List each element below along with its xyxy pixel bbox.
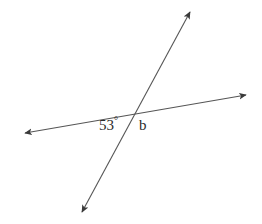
geometry-figure-canvas: 53° b (0, 0, 262, 224)
angle-label-53: 53° (99, 116, 118, 133)
angle-label-b: b (139, 118, 147, 133)
steep-line (82, 12, 190, 212)
angle-value-53: 53 (99, 117, 114, 133)
degree-symbol-icon: ° (114, 115, 118, 126)
geometry-figure-svg (0, 0, 262, 224)
